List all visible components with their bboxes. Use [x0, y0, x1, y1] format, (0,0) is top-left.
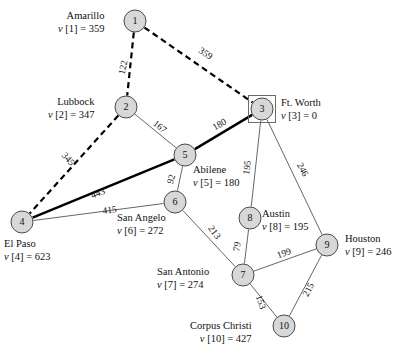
city-label-6: San Angelov [6] = 272 [117, 211, 166, 237]
node-id-label-6: 6 [173, 196, 178, 207]
edge-weight-3-8: 195 [241, 160, 253, 176]
edge-weight-9-10: 215 [301, 281, 317, 298]
city-distance-value-3: v [3] = 0 [281, 109, 321, 122]
node-id-label-9: 9 [325, 239, 330, 250]
city-name-7: San Antonio [157, 265, 209, 278]
city-distance-value-10: v [10] = 427 [190, 332, 252, 345]
graph-edge-2-4 [30, 116, 119, 214]
city-name-3: Ft. Worth [281, 96, 321, 109]
city-name-2: Lubbock [48, 95, 94, 108]
graph-edge-3-8 [251, 120, 260, 206]
city-label-3: Ft. Worthv [3] = 0 [281, 96, 321, 122]
node-id-label-10: 10 [279, 320, 289, 331]
city-label-7: San Antoniov [7] = 274 [157, 265, 209, 291]
city-name-8: Austin [262, 207, 308, 220]
edge-weight-7-8: 79 [231, 241, 242, 252]
city-label-5: Abilenev [5] = 180 [193, 163, 239, 189]
edge-weight-2-4: 345 [60, 150, 77, 167]
city-distance-value-9: v [9] = 246 [345, 245, 391, 258]
city-label-8: Austinv [8] = 195 [262, 207, 308, 233]
graph-figure: 12345678910 1223591673451801952464434159… [0, 0, 400, 359]
city-distance-value-4: v [4] = 623 [4, 250, 50, 263]
node-id-label-5: 5 [183, 149, 188, 160]
city-label-4: El Pasov [4] = 623 [4, 237, 50, 263]
city-label-9: Houstonv [9] = 246 [345, 232, 391, 258]
city-distance-value-2: v [2] = 347 [48, 108, 94, 121]
graph-edge-6-7 [183, 210, 235, 266]
city-name-1: Amarillo [58, 9, 104, 22]
city-name-9: Houston [345, 232, 391, 245]
edge-weight-4-6: 415 [102, 204, 118, 216]
edge-weight-2-5: 167 [151, 118, 169, 135]
graph-edge-1-3 [144, 28, 252, 103]
edge-weight-5-6: 92 [165, 173, 177, 185]
edge-weight-7-10: 153 [254, 294, 268, 311]
edge-weight-3-9: 246 [295, 161, 311, 178]
city-distance-value-5: v [5] = 180 [193, 176, 239, 189]
city-distance-value-7: v [7] = 274 [157, 278, 209, 291]
city-label-2: Lubbockv [2] = 347 [48, 95, 94, 121]
city-distance-value-1: v [1] = 359 [58, 22, 104, 35]
node-id-label-1: 1 [133, 15, 138, 26]
graph-edge-7-8 [244, 229, 248, 263]
edge-weight-1-3: 359 [197, 45, 215, 61]
node-id-label-3: 3 [260, 103, 265, 114]
edge-weight-1-2: 122 [117, 59, 130, 75]
city-distance-value-8: v [8] = 195 [262, 220, 308, 233]
graph-edge-5-6 [177, 166, 182, 191]
city-label-1: Amarillov [1] = 359 [58, 9, 104, 35]
city-name-5: Abilene [193, 163, 239, 176]
node-id-label-2: 2 [124, 101, 129, 112]
city-distance-value-6: v [6] = 272 [117, 224, 166, 237]
node-id-label-8: 8 [248, 212, 253, 223]
node-id-label-4: 4 [20, 216, 25, 227]
node-id-label-7: 7 [241, 269, 246, 280]
city-name-10: Corpus Christi [190, 319, 252, 332]
city-label-10: Corpus Christiv [10] = 427 [190, 319, 252, 345]
city-name-4: El Paso [4, 237, 50, 250]
city-name-6: San Angelo [117, 211, 166, 224]
